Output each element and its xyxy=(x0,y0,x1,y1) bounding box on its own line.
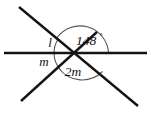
diagram-canvas: l m 2m 148 ° xyxy=(0,0,151,124)
angle-label-148: 148 xyxy=(76,33,97,48)
angle-label-148-group: 148 ° xyxy=(76,32,103,48)
degree-symbol-icon: ° xyxy=(99,32,102,41)
angle-diagram-figure: l m 2m 148 ° xyxy=(0,0,151,124)
angle-label-2m: 2m xyxy=(65,64,82,79)
diagonal-line-falling xyxy=(19,7,138,106)
angle-label-l: l xyxy=(48,35,52,50)
angle-arc-l xyxy=(54,39,58,53)
angle-label-m: m xyxy=(39,54,48,69)
